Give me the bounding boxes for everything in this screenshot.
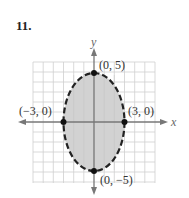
label-right: (3, 0) (128, 104, 154, 118)
x-arrow-left-icon (18, 119, 26, 125)
y-axis-label: y (90, 35, 97, 49)
x-arrow-right-icon (160, 119, 168, 125)
point-top (91, 70, 97, 76)
y-arrow-up-icon (91, 48, 97, 56)
label-left: (−3, 0) (19, 104, 52, 118)
point-bottom (91, 168, 97, 174)
x-axis-label: x (170, 115, 177, 129)
label-top: (0, 5) (99, 58, 125, 72)
point-left (61, 119, 67, 125)
label-bottom: (0, −5) (100, 173, 133, 187)
ellipse-graph: y x (0, 5) (3, 0) (−3, 0) (0, −5) (0, 0, 189, 198)
y-arrow-down-icon (91, 187, 97, 195)
point-right (122, 119, 128, 125)
